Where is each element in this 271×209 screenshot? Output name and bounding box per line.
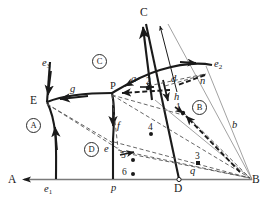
label-f: f (117, 121, 120, 132)
diagram-canvas (0, 0, 271, 209)
label-p: p (111, 183, 116, 194)
label-d: d (171, 74, 176, 85)
label-n: n (200, 76, 205, 87)
dot-1 (181, 111, 185, 115)
label-e1: e1 (44, 184, 52, 196)
region-label-B: B (192, 100, 207, 115)
liquidus-boundaries (47, 24, 212, 179)
dot-4 (149, 132, 153, 136)
point-label-6: 6 (122, 168, 127, 178)
region-label-A: A (26, 118, 41, 133)
label-e: e (104, 144, 109, 155)
point-D-marker (177, 177, 181, 181)
label-g: g (70, 84, 75, 95)
point-label-3: 3 (195, 152, 200, 162)
point-label-2: 2 (146, 77, 151, 87)
point-label-1: 1 (176, 103, 181, 113)
phase-diagram-figure: A B C A C B D e3 e2 e1 E g P a d n h b f… (0, 0, 271, 209)
label-P: P (110, 81, 116, 92)
label-h: h (174, 92, 179, 103)
composition-dots (131, 86, 200, 176)
label-D-base: D (174, 183, 182, 195)
dot-3 (196, 161, 200, 165)
region-label-D: D (84, 142, 99, 157)
label-q: q (190, 166, 195, 177)
corner-label-B: B (252, 174, 260, 186)
dot-6 (131, 172, 135, 176)
corner-label-C: C (140, 7, 148, 19)
reaction-arrows-dashed (122, 75, 240, 172)
label-e2: e2 (214, 59, 222, 71)
label-E: E (30, 95, 37, 107)
corner-label-A: A (8, 174, 16, 186)
label-b: b (232, 120, 237, 131)
dot-5 (131, 158, 135, 162)
region-label-C: C (92, 54, 107, 69)
point-label-4: 4 (148, 123, 153, 133)
label-a: a (131, 74, 136, 85)
point-label-5: 5 (121, 151, 126, 161)
label-e3: e3 (42, 58, 50, 70)
